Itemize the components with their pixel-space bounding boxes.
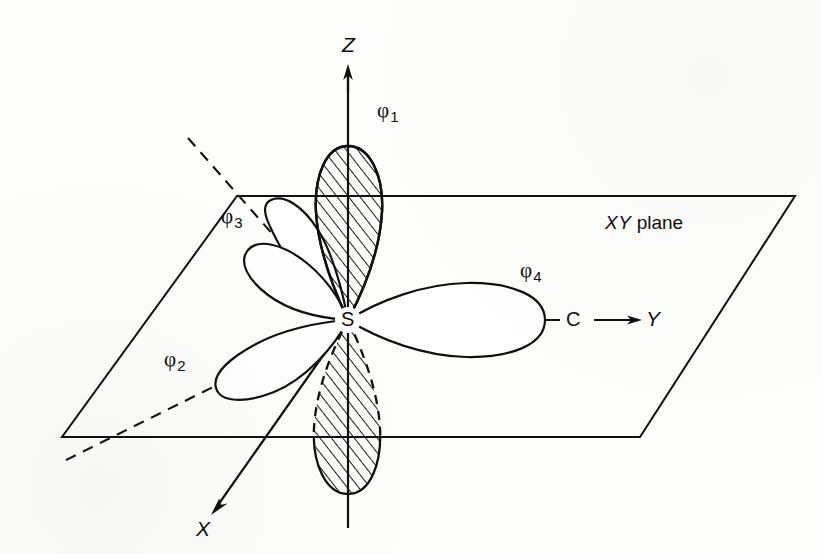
sulfur-atom-label: S <box>341 309 354 329</box>
orbital-label-phi4: φ4 <box>520 260 541 284</box>
phi2-subscript: 2 <box>176 357 185 374</box>
diagram-canvas <box>0 0 821 554</box>
orbital-label-phi2: φ2 <box>164 349 185 373</box>
orbital-label-phi1: φ1 <box>377 100 398 124</box>
phi3-symbol: φ <box>221 204 233 228</box>
x-axis-label: X <box>196 518 210 539</box>
orbital-lobe-phi4 <box>348 283 545 357</box>
xy-plane-label: XY plane <box>605 213 683 232</box>
orbital-diagram-figure: Z Y X S C XY plane φ1 φ2 φ3 φ4 <box>0 0 821 554</box>
xy-plane-label-roman: plane <box>631 212 683 233</box>
z-axis-label: Z <box>342 34 355 55</box>
xy-plane-label-italic: XY <box>605 212 631 233</box>
orbital-label-phi3: φ3 <box>221 206 242 230</box>
phi2-symbol: φ <box>164 347 176 371</box>
carbon-atom-label: C <box>566 309 580 329</box>
phi4-symbol: φ <box>520 258 532 282</box>
phi3-subscript: 3 <box>233 214 242 231</box>
phi1-subscript: 1 <box>389 108 398 125</box>
phi1-symbol: φ <box>377 98 389 122</box>
y-axis-label: Y <box>646 308 660 329</box>
phi4-subscript: 4 <box>532 268 541 285</box>
